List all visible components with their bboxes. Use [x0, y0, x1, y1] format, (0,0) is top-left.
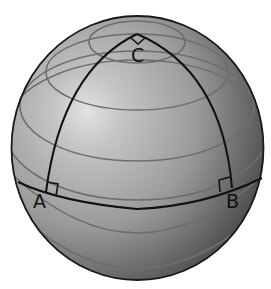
vertex-label-B: B	[226, 190, 239, 212]
vertex-label-A: A	[33, 190, 46, 212]
sphere-diagram: A B C	[0, 0, 271, 289]
vertex-label-C: C	[131, 44, 144, 66]
